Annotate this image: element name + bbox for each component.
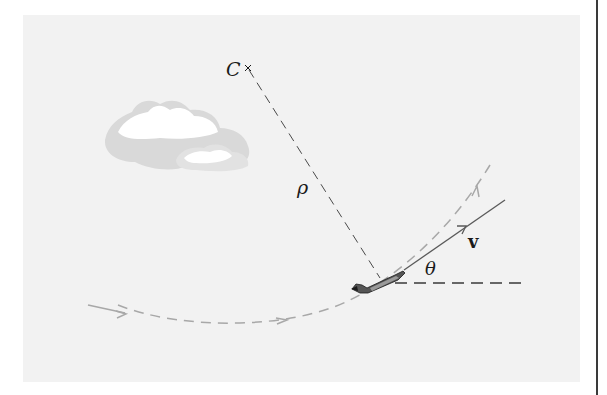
diagram-canvas: C ρ v θ [0,0,607,395]
velocity-vector [404,200,505,270]
arrow-icon [276,318,287,324]
velocity-label: v [467,231,479,252]
angle-label: θ [425,258,436,279]
center-label: C [226,58,241,80]
center-cross-icon [245,65,251,71]
radius-label: ρ [296,176,309,198]
radius-line [249,70,380,278]
arrow-icon [472,186,479,197]
cloud-icon [105,101,249,172]
arrow-icon [116,311,126,318]
